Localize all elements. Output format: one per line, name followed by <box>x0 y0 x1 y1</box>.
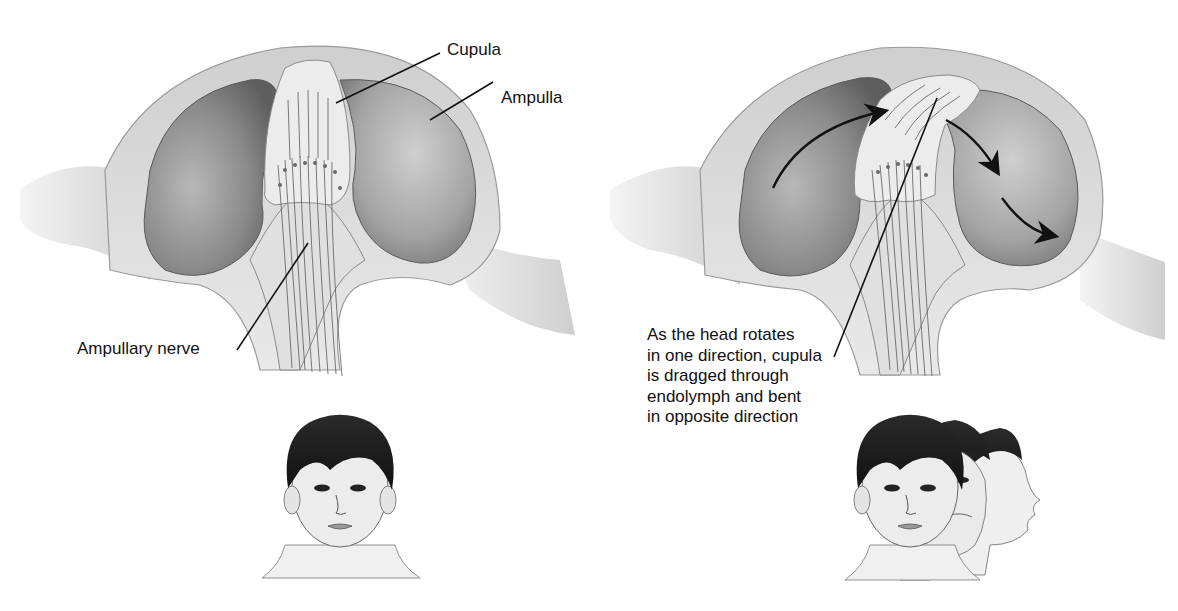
caption-line-4: endolymph and bent <box>647 387 822 408</box>
label-ampulla: Ampulla <box>501 88 562 108</box>
head-frontal <box>262 415 420 578</box>
head-rotating <box>845 415 1040 580</box>
caption-line-5: in opposite direction <box>647 407 822 428</box>
caption-line-3: is dragged through <box>647 366 822 387</box>
label-cupula: Cupula <box>447 40 501 60</box>
caption-rotation: As the head rotates in one direction, cu… <box>647 325 822 428</box>
caption-line-2: in one direction, cupula <box>647 346 822 367</box>
diagram-canvas <box>0 0 1178 611</box>
label-ampullary-nerve: Ampullary nerve <box>77 339 200 359</box>
caption-line-1: As the head rotates <box>647 325 822 346</box>
ampulla-rest <box>20 46 575 376</box>
